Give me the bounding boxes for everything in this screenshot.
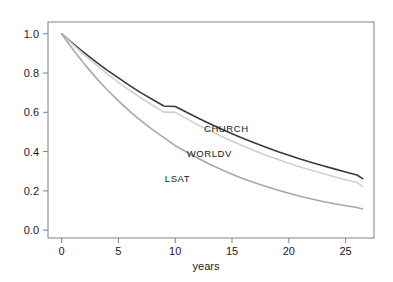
x-tick-label: 10 (169, 245, 181, 257)
x-axis-title: years (193, 260, 220, 272)
decay-curves-chart: 0.00.20.40.60.81.0 0510152025 CHURCHWORL… (0, 0, 393, 282)
y-tick-label: 0.2 (24, 185, 39, 197)
series-label-church: CHURCH (204, 123, 249, 134)
series-label-worldv: WORLDV (187, 148, 232, 159)
x-tick-label: 0 (59, 245, 65, 257)
chart-container: 0.00.20.40.60.81.0 0510152025 CHURCHWORL… (0, 0, 393, 282)
x-tick-label: 25 (339, 245, 351, 257)
y-tick-label: 0.0 (24, 224, 39, 236)
y-tick-label: 0.6 (24, 106, 39, 118)
x-tick-label: 20 (283, 245, 295, 257)
y-tick-label: 1.0 (24, 28, 39, 40)
x-tick-label: 15 (226, 245, 238, 257)
y-tick-label: 0.4 (24, 146, 39, 158)
chart-background (0, 0, 393, 282)
x-tick-label: 5 (115, 245, 121, 257)
y-tick-label: 0.8 (24, 67, 39, 79)
series-label-lsat: LSAT (165, 173, 190, 184)
